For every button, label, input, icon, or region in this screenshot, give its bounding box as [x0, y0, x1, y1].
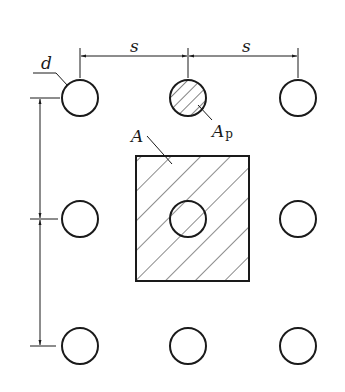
pile-circle	[170, 328, 206, 364]
area-label: A	[129, 126, 143, 146]
left-spacing-dimension	[30, 98, 60, 346]
pile-circle	[62, 201, 98, 237]
pile-area-label: Ap	[210, 121, 233, 141]
diameter-label: d	[41, 53, 52, 73]
top-spacing-dimension	[80, 48, 298, 78]
pile-circle	[62, 80, 98, 116]
pile-circle	[280, 328, 316, 364]
pile-circle	[280, 201, 316, 237]
spacing-label-left: s	[130, 36, 139, 56]
tributary-area-square	[136, 156, 249, 281]
pile-hatched-circle	[170, 80, 206, 116]
pile-layout-diagram: s s d A Ap	[0, 0, 345, 392]
pile-circle	[280, 80, 316, 116]
spacing-label-right: s	[242, 36, 251, 56]
pile-circle	[62, 328, 98, 364]
